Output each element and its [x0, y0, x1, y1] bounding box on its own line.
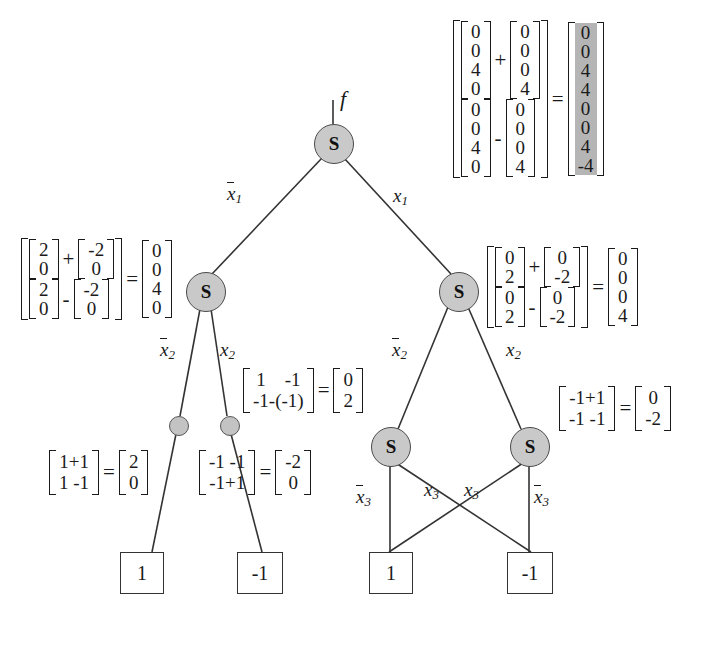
edge-label-left-x2-bar: x2: [160, 340, 175, 361]
cell: -2: [282, 451, 304, 472]
cell: 0: [578, 118, 594, 137]
cell: 0: [615, 287, 631, 306]
root-lhs-bottom-op: -: [492, 128, 505, 149]
cell: 0: [468, 100, 484, 119]
cell: 4: [468, 60, 484, 79]
root-equals-sign: =: [549, 89, 567, 110]
cell: 1 -1: [56, 472, 92, 493]
node-dot-right[interactable]: [220, 416, 240, 436]
edge-label-x3-bar-left-text: x: [356, 487, 364, 506]
rightlower-lhs-matrix: -1+1 -1 -1: [559, 386, 615, 431]
cell: 0: [517, 41, 533, 60]
node-level2-right-s[interactable]: S: [439, 272, 479, 312]
terminal-right-one[interactable]: 1: [369, 552, 413, 594]
cell: 0: [517, 22, 533, 41]
edge-label-x3-bar-left: x3: [356, 487, 371, 508]
root-result-vector: 0 0 4 4 0 0 4 -4: [568, 22, 604, 176]
bottomcenter-result-vector: -2 0: [275, 450, 311, 495]
bottomleft-equals-sign: =: [100, 462, 118, 483]
cell: 0: [149, 260, 165, 279]
cell: 0: [36, 259, 52, 278]
cell: 2: [126, 451, 142, 472]
cell: 0: [578, 99, 594, 118]
cell: 4: [149, 279, 165, 298]
cell: -2: [547, 307, 569, 326]
center-equals-sign: =: [315, 380, 333, 401]
rightlower-equals-sign: =: [616, 398, 634, 419]
edge-label-x3-bar-right: x3: [534, 487, 549, 508]
edge-label-left-x2-sub: 2: [228, 347, 235, 362]
midright-lhs-bottom-row: 0 2 - 0 -2: [494, 287, 581, 327]
cell: 0: [468, 157, 484, 176]
node-level2-left-s[interactable]: S: [186, 272, 226, 312]
terminal-left-one[interactable]: 1: [120, 552, 164, 594]
midright-lhs-top-b: 0 -2: [544, 247, 580, 287]
cell: 0: [126, 472, 142, 493]
cell: 0: [578, 23, 594, 42]
right-node-vector-equation: 0 2 + 0 -2 0: [486, 246, 639, 328]
midleft-result-vector: 0 0 4 0: [142, 240, 172, 318]
cell: 0: [513, 138, 529, 157]
root-lhs-top-b: 0 0 0 4: [510, 21, 540, 99]
midleft-lhs-top-a: 2 0: [29, 239, 59, 279]
midleft-lhs-bottom-row: 2 0 - -2 0: [28, 279, 115, 319]
root-vector-equation: 0 0 4 0 + 0 0 0 4: [452, 20, 605, 178]
diagram-canvas: f S S S S S 1 -1 1 -1 x1 x1 x2 x2 x2 x2 …: [0, 0, 717, 649]
cell: 0: [615, 268, 631, 287]
terminal-left-negone[interactable]: -1: [237, 552, 283, 594]
cell: 0: [89, 259, 105, 278]
terminal-right-negone[interactable]: -1: [507, 552, 553, 594]
cell: 1+1: [56, 451, 92, 472]
right-lower-vector-equation: -1+1 -1 -1 = 0 -2: [558, 386, 672, 431]
node-level3-right-s[interactable]: S: [510, 427, 550, 467]
cell: 4: [468, 138, 484, 157]
edge-label-x1-bar-text: x: [227, 184, 235, 203]
cell: -1 -1: [206, 451, 248, 472]
cell: 4: [615, 306, 631, 325]
edge-label-right-x2-bar-text: x: [392, 340, 400, 359]
cell: 0: [149, 298, 165, 317]
edge-label-x1-bar: x1: [227, 184, 242, 205]
midright-lhs-bottom-a: 0 2: [495, 287, 525, 327]
cell: 0: [36, 299, 52, 318]
cell: 0: [645, 387, 661, 408]
edge-label-x3-right: x3: [464, 480, 479, 501]
midleft-equals-sign: =: [123, 269, 141, 290]
root-lhs-top-row: 0 0 4 0 + 0 0 0 4: [460, 21, 541, 99]
function-label-f: f: [340, 88, 346, 110]
midright-lhs-top-row: 0 2 + 0 -2: [494, 247, 581, 287]
midleft-lhs-top-row: 2 0 + -2 0: [28, 239, 115, 279]
edge-label-x3-right-sub: 3: [472, 487, 479, 502]
center-lhs-matrix: 1 -1 -1-(-1): [243, 368, 314, 413]
left-node-vector-equation: 2 0 + -2 0 2: [20, 238, 173, 320]
center-vector-equation: 1 -1 -1-(-1) = 0 2: [242, 368, 364, 413]
cell: 0: [513, 100, 529, 119]
cell: -4: [575, 156, 597, 175]
edge-label-x3-bar-right-sub: 3: [542, 494, 549, 509]
bottomcenter-lhs-matrix: -1 -1 -1+1: [199, 450, 255, 495]
midleft-lhs-bottom-a: 2 0: [29, 279, 59, 319]
cell: 2: [502, 307, 518, 326]
edge-label-x1-sub: 1: [401, 193, 408, 208]
cell: 4: [517, 79, 533, 98]
edge-label-x3-bar-right-text: x: [534, 487, 542, 506]
midleft-lhs-bottom-b: -2 0: [74, 279, 110, 319]
edge-label-left-x2-bar-sub: 2: [168, 347, 175, 362]
midright-lhs-bottom-b: 0 -2: [540, 287, 576, 327]
cell: 1 -1: [253, 369, 303, 390]
cell: 0: [615, 249, 631, 268]
edge-label-x1: x1: [393, 186, 408, 207]
node-dot-left[interactable]: [169, 416, 189, 436]
midleft-lhs-top-b: -2 0: [78, 239, 114, 279]
edge-label-x3-left: x3: [424, 480, 439, 501]
midright-lhs-top-op: +: [526, 257, 544, 278]
cell: 0: [468, 79, 484, 98]
midleft-lhs-top-op: +: [60, 249, 78, 270]
cell: 0: [468, 41, 484, 60]
cell: 4: [578, 80, 594, 99]
node-root-s[interactable]: S: [314, 124, 354, 164]
cell: 0: [513, 119, 529, 138]
node-level3-left-s[interactable]: S: [371, 427, 411, 467]
edge-label-right-x2-bar-sub: 2: [400, 347, 407, 362]
cell: 0: [502, 248, 518, 267]
